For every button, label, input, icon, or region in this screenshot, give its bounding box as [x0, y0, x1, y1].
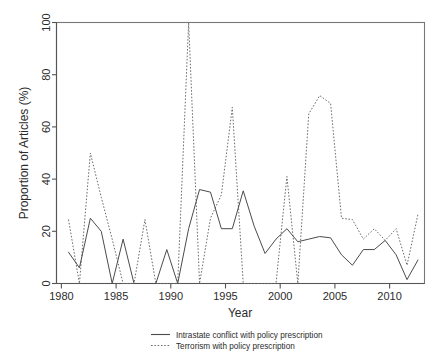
line-chart: 0 20 40 60 80 100 Proportion of Articles…: [0, 0, 444, 357]
x-tick-label-2000: 2000: [268, 290, 292, 302]
legend-label-terrorism: Terrorism with policy prescription: [176, 342, 295, 351]
y-tick-label-20: 20: [40, 225, 52, 237]
legend-label-intrastate: Intrastate conflict with policy prescrip…: [176, 331, 323, 340]
x-tick-label-2005: 2005: [323, 290, 347, 302]
y-tick-label-0: 0: [40, 280, 52, 286]
x-tick-label-1985: 1985: [104, 290, 128, 302]
x-axis-title: Year: [228, 306, 252, 320]
y-tick-label-40: 40: [40, 173, 52, 185]
y-tick-label-80: 80: [40, 69, 52, 81]
y-axis-title: Proportion of Articles (%): [17, 87, 31, 220]
x-tick-label-1990: 1990: [159, 290, 183, 302]
y-tick-label-100: 100: [40, 13, 52, 31]
x-tick-label-1980: 1980: [49, 290, 73, 302]
y-tick-label-60: 60: [40, 121, 52, 133]
chart-figure: 0 20 40 60 80 100 Proportion of Articles…: [0, 0, 444, 357]
chart-background: [0, 0, 444, 357]
x-tick-label-2010: 2010: [377, 290, 401, 302]
x-tick-label-1995: 1995: [213, 290, 237, 302]
